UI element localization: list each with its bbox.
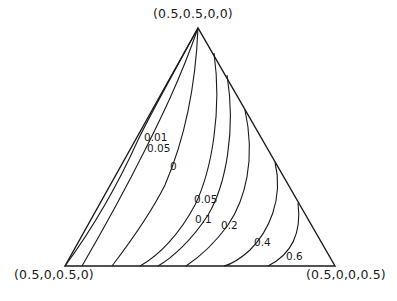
contour-0.4 [224, 162, 278, 266]
contour-0.1 [158, 75, 230, 266]
triangle-outline [65, 28, 335, 266]
vertex-label-bottom-left: (0.5,0,0.5,0) [14, 267, 94, 282]
vertex-label-top: (0.5,0.5,0,0) [153, 6, 233, 21]
contour-0.05-right [140, 53, 217, 266]
contour-label: 0.4 [254, 236, 271, 248]
contour-label: 0.1 [195, 213, 212, 225]
contour-label: 0.6 [286, 250, 303, 262]
ternary-diagram [0, 0, 397, 301]
contour-label: 0.05 [194, 193, 217, 205]
contour-label: 0 [170, 160, 177, 172]
vertex-label-bottom-right: (0.5,0,0,0.5) [306, 267, 386, 282]
contour-label: 0.05 [147, 142, 170, 154]
contour-0.05-left [82, 28, 198, 266]
contour-0.2 [186, 110, 249, 266]
contour-label: 0.2 [221, 219, 238, 231]
